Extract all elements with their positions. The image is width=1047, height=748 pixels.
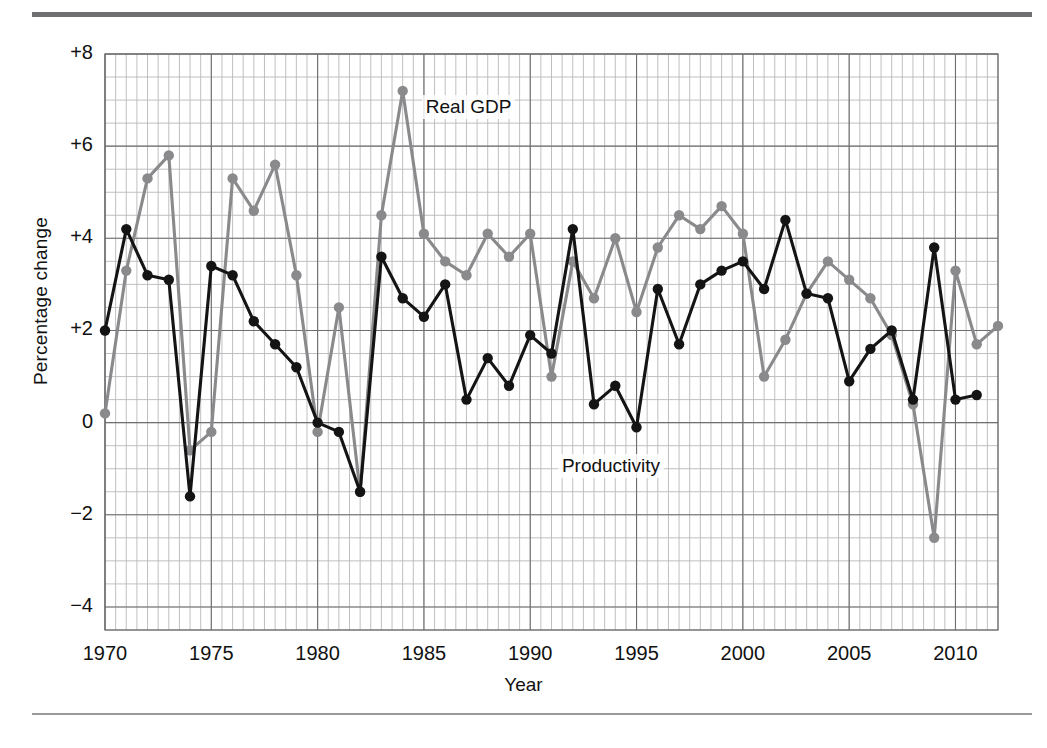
data-point <box>908 394 918 404</box>
x-tick-label: 2005 <box>804 642 894 665</box>
data-point <box>270 159 280 169</box>
data-point <box>164 275 174 285</box>
data-point <box>206 427 216 437</box>
data-point <box>993 321 1003 331</box>
x-tick-label: 2000 <box>698 642 788 665</box>
y-axis-label: Percentage change <box>30 186 52 416</box>
series-annotation: Productivity <box>558 454 664 478</box>
data-point <box>610 381 620 391</box>
data-point <box>121 265 131 275</box>
data-point <box>695 279 705 289</box>
x-tick-label: 1975 <box>166 642 256 665</box>
y-tick-label: −4 <box>37 594 93 617</box>
data-point <box>972 339 982 349</box>
data-point <box>823 293 833 303</box>
data-point <box>653 242 663 252</box>
y-tick-label: +2 <box>37 317 93 340</box>
data-point <box>589 399 599 409</box>
data-point <box>142 173 152 183</box>
data-point <box>568 224 578 234</box>
data-point <box>100 408 110 418</box>
data-point <box>440 279 450 289</box>
data-point <box>738 256 748 266</box>
y-tick-label: −2 <box>37 502 93 525</box>
data-point <box>950 394 960 404</box>
x-tick-label: 1970 <box>60 642 150 665</box>
data-point <box>100 325 110 335</box>
data-point <box>185 491 195 501</box>
data-point <box>546 348 556 358</box>
data-point <box>312 427 322 437</box>
data-point <box>738 229 748 239</box>
data-point <box>674 339 684 349</box>
data-point <box>355 487 365 497</box>
data-point <box>419 229 429 239</box>
x-tick-label: 2010 <box>910 642 1000 665</box>
data-point <box>291 270 301 280</box>
figure-root: Percentage change Year +8+6+4+20−2−4 197… <box>0 0 1047 748</box>
data-point <box>631 307 641 317</box>
data-point <box>610 233 620 243</box>
data-point <box>504 381 514 391</box>
data-point <box>801 288 811 298</box>
data-point <box>461 394 471 404</box>
data-point <box>121 224 131 234</box>
data-point <box>312 417 322 427</box>
data-point <box>376 210 386 220</box>
x-tick-label: 1995 <box>592 642 682 665</box>
data-point <box>589 293 599 303</box>
data-point <box>631 422 641 432</box>
data-point <box>440 256 450 266</box>
data-point <box>865 293 875 303</box>
y-tick-label: +4 <box>37 225 93 248</box>
data-point <box>164 150 174 160</box>
data-point <box>823 256 833 266</box>
data-point <box>270 339 280 349</box>
data-point <box>716 201 726 211</box>
data-point <box>483 353 493 363</box>
data-point <box>376 252 386 262</box>
y-tick-label: +8 <box>37 41 93 64</box>
x-tick-label: 1985 <box>379 642 469 665</box>
data-point <box>334 427 344 437</box>
data-point <box>504 252 514 262</box>
data-point <box>695 224 705 234</box>
x-tick-label: 1990 <box>485 642 575 665</box>
plot-area-wrapper <box>0 0 1047 748</box>
data-point <box>950 265 960 275</box>
data-point <box>972 390 982 400</box>
data-point <box>249 316 259 326</box>
data-point <box>887 325 897 335</box>
data-point <box>483 229 493 239</box>
x-axis-label: Year <box>0 674 1047 696</box>
data-point <box>716 265 726 275</box>
data-point <box>865 344 875 354</box>
x-tick-label: 1980 <box>273 642 363 665</box>
data-point <box>546 371 556 381</box>
data-point <box>844 376 854 386</box>
data-point <box>653 284 663 294</box>
data-point <box>674 210 684 220</box>
data-point <box>291 362 301 372</box>
data-point <box>398 86 408 96</box>
y-tick-label: 0 <box>37 410 93 433</box>
data-point <box>929 242 939 252</box>
data-point <box>398 293 408 303</box>
series-annotation: Real GDP <box>422 95 516 119</box>
data-point <box>249 206 259 216</box>
data-point <box>525 229 535 239</box>
data-point <box>334 302 344 312</box>
data-point <box>227 173 237 183</box>
data-point <box>780 215 790 225</box>
data-point <box>461 270 471 280</box>
data-point <box>227 270 237 280</box>
data-point <box>419 312 429 322</box>
data-point <box>142 270 152 280</box>
data-point <box>780 335 790 345</box>
data-point <box>759 284 769 294</box>
data-point <box>929 533 939 543</box>
data-point <box>759 371 769 381</box>
line-chart <box>0 0 1047 748</box>
y-tick-label: +6 <box>37 133 93 156</box>
data-point <box>525 330 535 340</box>
